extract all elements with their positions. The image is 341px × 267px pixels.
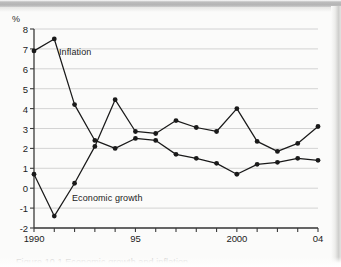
y-axis-tick-label: 5 [12,83,28,94]
y-axis-tick-label: 2 [12,143,28,154]
line-chart: % Inflation Economic growth 876543210-1-… [0,0,341,250]
data-point [174,118,179,123]
data-point [194,125,199,130]
data-point [52,37,57,42]
data-point [92,144,97,149]
x-axis-tick-label: 95 [130,233,140,244]
data-point [316,124,321,129]
data-point [275,160,280,165]
data-point [72,181,77,186]
data-point [255,162,260,167]
data-point [113,97,118,102]
data-point [174,152,179,157]
data-point [316,158,321,163]
y-axis-unit-label: % [12,14,20,24]
data-point [194,156,199,161]
y-axis-tick-label: -1 [12,203,28,214]
data-point [214,161,219,166]
x-axis-tick-label: 04 [313,233,323,244]
data-point [295,141,300,146]
data-point [295,156,300,161]
data-point [153,131,158,136]
y-axis-tick-label: 7 [12,43,28,54]
data-point [214,129,219,134]
scanned-page-background: % Inflation Economic growth 876543210-1-… [0,0,341,267]
y-axis-tick-label: 8 [12,24,28,35]
data-point [275,149,280,154]
data-point [32,48,37,53]
chart-plot-area [0,0,341,250]
data-point [153,138,158,143]
data-point [133,129,138,134]
data-point [133,136,138,141]
data-point [234,106,239,111]
series-label-inflation: Inflation [59,47,91,57]
data-point [32,172,37,177]
data-point [52,214,57,219]
data-point [255,139,260,144]
x-axis-tick-label: 2000 [226,233,247,244]
x-axis-tick-label: 1990 [24,233,45,244]
y-axis-tick-label: 0 [12,183,28,194]
page-edge-shadow-right [331,6,341,267]
y-axis-tick-label: -2 [12,223,28,234]
y-axis-tick-label: 4 [12,103,28,114]
series-label-economic-growth: Economic growth [72,193,143,203]
data-point [113,146,118,151]
data-point [72,102,77,107]
data-point [234,172,239,177]
y-axis-tick-label: 1 [12,163,28,174]
page-bottom-fade [0,257,341,267]
y-axis-tick-label: 3 [12,123,28,134]
y-axis-tick-label: 6 [12,63,28,74]
